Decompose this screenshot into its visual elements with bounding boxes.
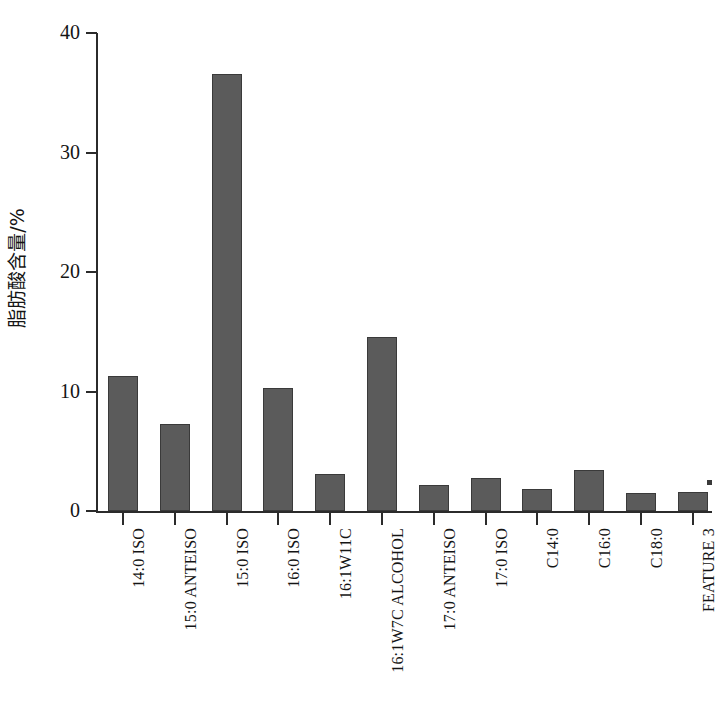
x-tick-mark xyxy=(122,512,124,525)
bar xyxy=(367,337,397,511)
x-tick-mark xyxy=(329,512,331,525)
y-tick-mark xyxy=(86,152,97,154)
bar xyxy=(471,478,501,511)
y-axis-title: 脂肪酸含量/% xyxy=(2,178,29,358)
ink-speck xyxy=(707,480,712,485)
bar xyxy=(522,489,552,511)
bar xyxy=(678,492,708,511)
x-tick-label: 17:0 ISO xyxy=(494,528,510,688)
x-tick-mark xyxy=(226,512,228,525)
x-tick-label: C14:0 xyxy=(545,528,561,688)
x-tick-mark xyxy=(588,512,590,525)
x-tick-mark xyxy=(277,512,279,525)
x-tick-mark xyxy=(640,512,642,525)
x-tick-label: 15:0 ANTEISO xyxy=(183,528,199,688)
y-tick-mark xyxy=(86,32,97,34)
bar xyxy=(574,470,604,511)
y-tick-label: 0 xyxy=(34,500,80,520)
bar xyxy=(263,388,293,511)
bar xyxy=(315,474,345,511)
y-tick-label: 30 xyxy=(34,142,80,162)
y-tick-label: 20 xyxy=(34,261,80,281)
x-tick-mark xyxy=(692,512,694,525)
x-tick-mark xyxy=(536,512,538,525)
y-tick-mark xyxy=(86,391,97,393)
x-tick-label: FEATURE 3 xyxy=(701,528,717,688)
x-tick-mark xyxy=(485,512,487,525)
bar xyxy=(212,74,242,511)
bar xyxy=(419,485,449,511)
x-tick-label: 16:1W11C xyxy=(338,528,354,688)
bar xyxy=(160,424,190,511)
fatty-acid-bar-chart: 脂肪酸含量/% 010203040 14:0 ISO15:0 ANTEISO15… xyxy=(0,0,718,722)
bar xyxy=(108,376,138,511)
x-tick-label: C18:0 xyxy=(649,528,665,688)
y-tick-label: 40 xyxy=(34,22,80,42)
x-tick-label: C16:0 xyxy=(597,528,613,688)
bar xyxy=(626,493,656,511)
x-tick-label: 16:1W7C ALCOHOL xyxy=(390,528,406,688)
x-axis-line xyxy=(96,511,712,513)
y-tick-label: 10 xyxy=(34,381,80,401)
x-tick-label: 17:0 ANTEISO xyxy=(442,528,458,688)
x-tick-mark xyxy=(433,512,435,525)
y-tick-mark xyxy=(86,271,97,273)
x-tick-label: 14:0 ISO xyxy=(131,528,147,688)
y-tick-mark xyxy=(86,510,97,512)
x-tick-mark xyxy=(381,512,383,525)
x-tick-label: 16:0 ISO xyxy=(286,528,302,688)
x-tick-mark xyxy=(174,512,176,525)
x-tick-label: 15:0 ISO xyxy=(235,528,251,688)
y-axis-line xyxy=(96,33,98,513)
